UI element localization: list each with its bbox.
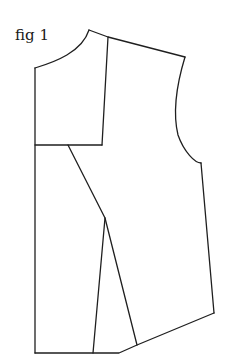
dart-line <box>93 218 105 353</box>
shoulder-line <box>89 30 185 57</box>
armhole-curve <box>176 57 201 163</box>
side-seam <box>201 163 214 313</box>
pattern-diagram <box>0 0 230 362</box>
back-neckline <box>35 30 89 68</box>
back-panel-edge <box>102 37 108 145</box>
hem-line <box>35 313 214 353</box>
